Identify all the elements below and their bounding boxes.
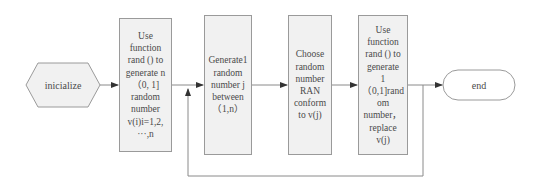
end-node-label: end	[443, 70, 515, 100]
step3-box: Choose random number RAN conform to v(j)	[288, 15, 332, 155]
step2-box: Generate1 random number j between （1,n）	[204, 15, 252, 155]
step4-box: Use function rand () to generate 1 （0,1]…	[358, 15, 408, 155]
flowchart-canvas: inicialize Use function rand () to gener…	[0, 0, 540, 186]
step2-label: Generate1 random number j between （1,n）	[208, 54, 247, 115]
step1-box: Use function rand () to generate n （0, 1…	[119, 18, 172, 152]
step1-label: Use function rand () to generate n （0, 1…	[126, 30, 165, 140]
step3-label: Choose random number RAN conform to v(j)	[294, 48, 326, 121]
step4-label: Use function rand () to generate 1 （0,1]…	[362, 24, 404, 146]
start-node-label: inicialize	[26, 63, 100, 107]
